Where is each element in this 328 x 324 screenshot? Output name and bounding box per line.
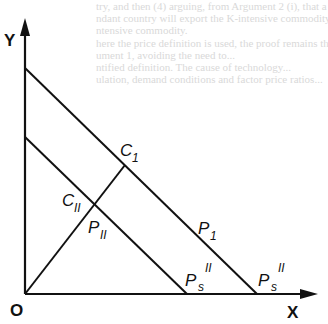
svg-text:1: 1	[210, 229, 217, 243]
label-c2: C II	[62, 191, 81, 215]
label-ps-outer: P s II	[258, 261, 285, 294]
label-p2: P II	[88, 218, 107, 242]
svg-text:P: P	[258, 271, 270, 290]
svg-text:P: P	[88, 218, 100, 237]
y-axis-arrowhead	[20, 18, 30, 36]
label-c1: C 1	[120, 141, 139, 165]
svg-text:s: s	[271, 280, 277, 294]
svg-text:II: II	[100, 228, 107, 242]
y-axis-label: Y	[4, 31, 16, 50]
svg-text:1: 1	[132, 151, 139, 165]
svg-text:II: II	[205, 261, 212, 275]
origin-label: O	[10, 301, 23, 320]
line-p1	[25, 68, 257, 294]
line-p2	[25, 137, 187, 294]
svg-text:II: II	[278, 261, 285, 275]
x-axis-label: X	[287, 303, 299, 322]
svg-text:s: s	[198, 280, 204, 294]
label-ps-inner: P s II	[185, 261, 212, 294]
x-axis-arrowhead	[300, 289, 318, 299]
svg-text:II: II	[74, 201, 81, 215]
svg-text:P: P	[185, 271, 197, 290]
svg-text:P: P	[198, 219, 210, 238]
isocost-diagram: Y X O C 1 C II P 1 P II P s II P s II	[0, 0, 328, 324]
